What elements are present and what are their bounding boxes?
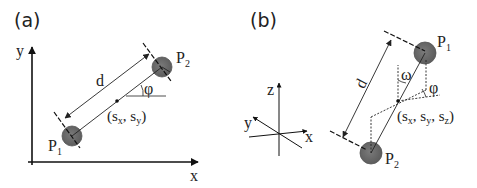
- center-point: [115, 99, 119, 103]
- center-point-3d: [396, 99, 400, 103]
- x-axis-label: x: [190, 167, 198, 184]
- p1-label: P1: [48, 137, 62, 157]
- z-axis-label: z: [267, 81, 274, 98]
- center-label-3d: (sx, sy, sz): [397, 108, 454, 126]
- panel-a-label: (a): [14, 9, 40, 31]
- distance-label-3d: d: [351, 76, 370, 91]
- p2-tick-3d: [330, 131, 367, 150]
- angle-label-omega: ω: [401, 66, 412, 83]
- angle-label-phi: φ: [144, 80, 153, 98]
- p2-label-3d: P2: [385, 150, 399, 170]
- p2-label: P2: [176, 49, 190, 69]
- y-axis-label: y: [16, 42, 24, 60]
- panel-a: (a) y x d φ (sx, sy) P1 P2: [14, 9, 198, 184]
- panel-b-label: (b): [250, 9, 277, 31]
- panel-b: (b) z y x d ω φ (sx, sy, sz): [244, 9, 454, 170]
- distance-label: d: [96, 72, 104, 89]
- y-axis-3d-label: y: [244, 114, 252, 132]
- angle-arc: [141, 85, 143, 96]
- angle-label-phi-3d: φ: [429, 79, 438, 97]
- center-label: (sx, sy): [107, 108, 146, 126]
- p1-label-3d: P1: [437, 33, 451, 53]
- figure: (a) y x d φ (sx, sy) P1 P2 (b): [0, 0, 477, 188]
- x-axis-3d: [249, 131, 307, 137]
- x-axis-3d-label: x: [305, 128, 313, 145]
